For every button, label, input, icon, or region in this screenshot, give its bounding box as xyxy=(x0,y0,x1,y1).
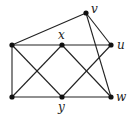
label-u: u xyxy=(117,38,125,52)
label-x: x xyxy=(58,28,65,42)
graph-diagram: x u v y w xyxy=(0,0,135,114)
node-w xyxy=(108,94,113,99)
label-v: v xyxy=(91,2,98,16)
node-x xyxy=(59,42,64,47)
edges xyxy=(12,13,111,97)
label-w: w xyxy=(116,90,127,104)
edge-v-u xyxy=(86,13,111,45)
node-b xyxy=(9,94,14,99)
node-u xyxy=(108,42,113,47)
label-y: y xyxy=(57,100,65,114)
node-v xyxy=(83,10,88,15)
edge-a-v xyxy=(12,13,86,45)
node-a xyxy=(9,42,14,47)
node-y xyxy=(59,94,64,99)
